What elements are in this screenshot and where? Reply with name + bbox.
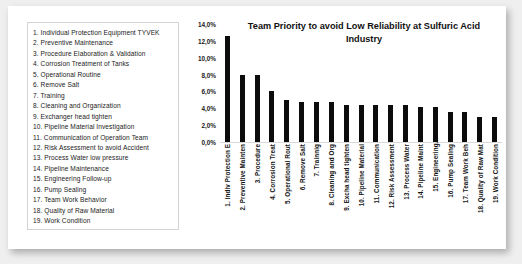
screenshot-root: 1. Individual Protection Equipment TYVEK… xyxy=(0,0,522,264)
x-label-cell: 6. Remove Salt xyxy=(294,144,309,248)
bar[interactable] xyxy=(329,102,334,142)
bar-cell xyxy=(250,24,265,142)
bar-cell xyxy=(279,24,294,142)
x-axis-tick-label: 18. Quality of Raw Mat xyxy=(476,144,483,213)
bar-cell xyxy=(487,24,502,142)
x-label-cell: 18. Quality of Raw Mat xyxy=(472,144,487,248)
x-axis-tick-label: 1. Indiv Protection E xyxy=(224,144,231,207)
bar[interactable] xyxy=(314,102,319,142)
bar-cell xyxy=(309,24,324,142)
x-label-cell: 12. Risk Assessment xyxy=(383,144,398,248)
list-item: 18. Quality of Raw Material xyxy=(33,206,174,216)
list-item: 7. Training xyxy=(33,91,174,101)
bar-cell xyxy=(368,24,383,142)
list-item: 9. Exchanger head tighten xyxy=(33,112,174,122)
list-item: 5. Operational Routine xyxy=(33,70,174,80)
y-axis-tick: 14,0% xyxy=(198,21,216,28)
bar-cell xyxy=(265,24,280,142)
bar[interactable] xyxy=(462,112,467,142)
y-axis-tick: 2,0% xyxy=(201,122,216,129)
x-axis-tick-label: 7. Trainnig xyxy=(313,144,320,177)
y-axis-tick: 4,0% xyxy=(201,105,216,112)
x-axis-tick-label: 11. Communication xyxy=(372,144,379,203)
x-label-cell: 13. Process Water xyxy=(398,144,413,248)
list-item: 14. Pipeline Maintenance xyxy=(33,164,174,174)
x-axis-tick-label: 6. Remove Salt xyxy=(298,144,305,190)
bar-chart: Team Priority to avoid Low Reliability a… xyxy=(184,16,506,255)
priority-legend-panel: 1. Individual Protection Equipment TYVEK… xyxy=(27,22,179,230)
list-item: 16. Pump Sealing xyxy=(33,185,174,195)
x-label-cell: 5. Operational Rout xyxy=(279,144,294,248)
y-axis-tick: 10,0% xyxy=(198,54,216,61)
x-axis-tick-label: 15. Engineering… xyxy=(432,137,439,192)
x-label-cell: 7. Trainnig xyxy=(309,144,324,248)
bar[interactable] xyxy=(448,112,453,142)
plot-area xyxy=(220,24,502,142)
list-item: 4. Corrosion Treatment of Tanks xyxy=(33,59,174,69)
bar-cell xyxy=(398,24,413,142)
x-axis-tick-label: 5. Operational Rout xyxy=(283,144,290,204)
x-label-cell: 3. Procedure xyxy=(250,144,265,248)
x-axis-tick-label: 3. Procedure xyxy=(254,144,261,183)
y-axis-tick: 8,0% xyxy=(201,71,216,78)
bar-cell xyxy=(472,24,487,142)
x-label-cell: 19. Work Condition xyxy=(487,144,502,248)
bar[interactable] xyxy=(492,117,497,142)
x-axis-tick-label: 2. Preventive Mainten xyxy=(239,144,246,211)
x-label-cell: 16. Pump Sealing xyxy=(443,144,458,248)
bar-cell xyxy=(220,24,235,142)
bar[interactable] xyxy=(359,105,364,142)
list-item: 19. Work Condition xyxy=(33,216,174,226)
x-axis-tick-label: 17. Team Work Beh xyxy=(461,144,468,203)
list-item: 8. Cleaning and Organization xyxy=(33,101,174,111)
x-label-cell: 17. Team Work Beh xyxy=(458,144,473,248)
bar-cell xyxy=(413,24,428,142)
bar-cell xyxy=(235,24,250,142)
x-axis-line xyxy=(220,142,502,143)
list-item: 3. Procedure Elaboration & Validation xyxy=(33,49,174,59)
bar[interactable] xyxy=(284,100,289,142)
x-axis-tick-label: 10. Pipeline Material xyxy=(358,144,365,206)
y-axis: 14,0%12,0%10,0%8,0%6,0%4,0%2,0%0,0% xyxy=(184,24,216,144)
x-axis-tick-label: 12. Risk Assessment xyxy=(387,144,394,208)
bar-cell xyxy=(443,24,458,142)
bar-cell xyxy=(383,24,398,142)
bar[interactable] xyxy=(255,75,260,142)
x-axis-tick-label: 4. Corrosion Treat xyxy=(268,144,275,200)
document-page: 1. Individual Protection Equipment TYVEK… xyxy=(8,6,506,249)
bar-cell xyxy=(458,24,473,142)
bar[interactable] xyxy=(373,105,378,142)
bar[interactable] xyxy=(240,75,245,142)
bar[interactable] xyxy=(269,91,274,142)
x-label-cell: 9. Excha head tighten xyxy=(339,144,354,248)
x-label-cell: 11. Communication xyxy=(368,144,383,248)
list-item: 17. Team Work Behavior xyxy=(33,195,174,205)
x-label-cell: 1. Indiv Protection E xyxy=(220,144,235,248)
bar[interactable] xyxy=(403,105,408,142)
list-item: 12. Risk Assessment to avoid Accident xyxy=(33,143,174,153)
bar[interactable] xyxy=(388,105,393,142)
x-label-cell: 14. Pipeline Maint xyxy=(413,144,428,248)
bar-cell xyxy=(294,24,309,142)
list-item: 10. Pipeline Material Investigation xyxy=(33,122,174,132)
x-axis-tick-label: 13. Process Water xyxy=(402,144,409,200)
list-item: 2. Preventive Maintenance xyxy=(33,38,174,48)
bar-cell xyxy=(324,24,339,142)
x-axis-tick-label: 8. Cleaning and Org xyxy=(328,144,335,205)
x-label-cell: 8. Cleaning and Org xyxy=(324,144,339,248)
bar[interactable] xyxy=(299,102,304,142)
list-item: 6. Remove Salt xyxy=(33,80,174,90)
bar-cell xyxy=(428,24,443,142)
x-axis-labels: 1. Indiv Protection E2. Preventive Maint… xyxy=(220,144,502,248)
bar[interactable] xyxy=(225,36,230,142)
x-label-cell: 2. Preventive Mainten xyxy=(235,144,250,248)
bar[interactable] xyxy=(418,107,423,142)
bar[interactable] xyxy=(344,105,349,142)
list-item: 11. Communication of Operation Team xyxy=(33,133,174,143)
x-axis-tick-label: 16. Pump Sealing xyxy=(447,144,454,198)
list-item: 13. Process Water low pressure xyxy=(33,153,174,163)
bar-series xyxy=(220,24,502,142)
y-axis-tick: 12,0% xyxy=(198,37,216,44)
x-label-cell: 4. Corrosion Treat xyxy=(265,144,280,248)
bar[interactable] xyxy=(477,117,482,142)
